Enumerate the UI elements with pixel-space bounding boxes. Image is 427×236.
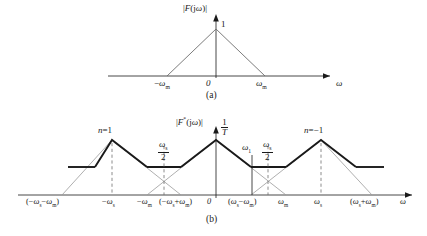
panel-a-x-arrow-icon [323, 73, 330, 79]
panel-b-peak-den: T [221, 127, 228, 137]
panel-b-tick-minus-omega-s: −ωs [102, 198, 115, 208]
panel-a-y-arrow-icon [213, 14, 219, 22]
panel-b-x-axis-label: ω [400, 198, 406, 206]
panel-b-tick-omega-s-minus-omega-m: (ωs−ωm) [228, 198, 256, 208]
panel-b-tick-omega-s: ωs [314, 198, 322, 208]
panel-b-peak-value: 1 T [221, 118, 228, 137]
panel-b-omega1-label: ω1 [242, 143, 251, 155]
panel-a-peak-value: 1 [221, 20, 226, 29]
panel-b-envelope-peak-n1 [95, 140, 147, 167]
panel-b-half-sampling-freq-right: ωs 2 [262, 140, 273, 162]
panel-b-origin-label: 0 [207, 198, 211, 206]
panel-b-tick-minus-omega-s-plus-omega-m: (−ωs+ωm) [159, 198, 192, 208]
panel-b-half-sampling-num-left: ωs [158, 140, 169, 152]
panel-b-half-sampling-den-left: 2 [158, 152, 169, 162]
panel-b-tick-minus-omega-s-minus-omega-m: (−ωs−ωm) [26, 198, 59, 208]
panel-a-tick-minus-omega-m: −ωm [154, 79, 170, 91]
panel-b-y-axis-label: |F*(jω)| [176, 117, 203, 127]
panel-b-half-sampling-den-right: 2 [262, 152, 273, 162]
panel-b-harmonic-label-n-minus-1: n=−1 [304, 126, 323, 135]
panel-a-y-axis-label: |F(jω)| [183, 4, 207, 13]
panel-b-tick-omega-m: ωm [278, 198, 288, 208]
panel-b-harmonic-label-n1: n=1 [98, 126, 112, 135]
panel-a-graph [108, 14, 330, 79]
panel-b-half-sampling-freq-left: ωs 2 [158, 140, 169, 162]
panel-a-tick-omega-m: ωm [256, 79, 267, 91]
panel-b-peak-num: 1 [221, 118, 228, 127]
panel-a-origin-label: 0 [206, 79, 211, 88]
panel-b-caption: (b) [206, 215, 217, 225]
panel-b-graph [18, 126, 412, 198]
panel-b-x-arrow-icon [405, 192, 412, 198]
panel-a-x-axis-label: ω [336, 79, 342, 88]
panel-b-tick-minus-omega-m: −ωm [137, 198, 152, 208]
panel-a-caption: (a) [206, 91, 217, 101]
panel-b-y-arrow-icon [213, 126, 219, 134]
panel-b-half-sampling-num-right: ωs [262, 140, 273, 152]
panel-b-tick-omega-s-plus-omega-m: (ωs+ωm) [350, 198, 378, 208]
